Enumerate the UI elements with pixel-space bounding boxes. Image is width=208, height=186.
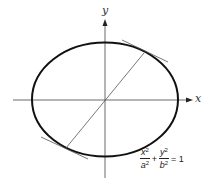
equation-plus: + [152, 154, 157, 164]
ellipse-equation: x2 a2 + y2 b2 = 1 [140, 147, 184, 170]
term-x-den-exp: 2 [146, 160, 149, 166]
x-axis-label: x [195, 92, 201, 105]
equation-term-y: y2 b2 [159, 147, 169, 170]
term-y-num-exp: 2 [165, 147, 168, 153]
term-y-den-exp: 2 [165, 160, 168, 166]
y-axis-arrow-icon [103, 19, 108, 26]
term-x-num-exp: 2 [146, 147, 149, 153]
equation-term-x: x2 a2 [140, 147, 150, 170]
tangent-line-lower [41, 137, 88, 159]
x-axis-arrow-icon [186, 98, 193, 103]
y-axis-label: y [102, 4, 108, 17]
tangent-line-upper [122, 40, 168, 62]
equation-equals: = 1 [171, 154, 184, 164]
